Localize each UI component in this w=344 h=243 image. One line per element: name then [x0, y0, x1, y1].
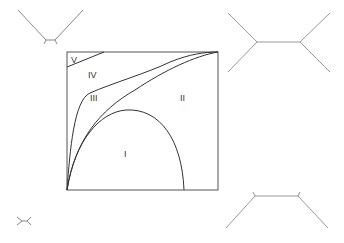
phase-diagram: V IV III II I: [0, 0, 344, 243]
region-label-iii: III: [90, 93, 98, 103]
tree-top-right: [228, 13, 330, 72]
tree-top-left: [18, 10, 83, 44]
region-label-iv: IV: [88, 70, 97, 80]
region-label-i: I: [124, 149, 127, 159]
tree-bottom-left: [17, 217, 31, 225]
region-label-v: V: [71, 55, 77, 65]
region-label-ii: II: [180, 93, 185, 103]
tree-bottom-right: [226, 192, 328, 228]
